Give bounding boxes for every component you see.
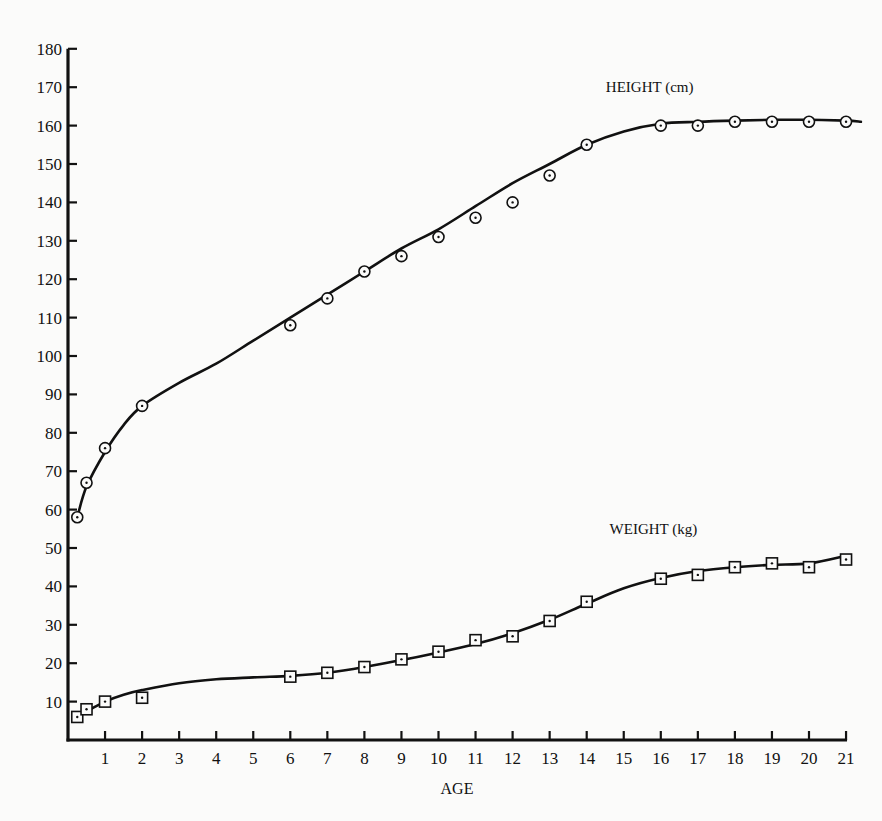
circle-marker-icon (507, 197, 518, 208)
x-tick-label: 3 (175, 749, 184, 768)
x-tick-label: 15 (615, 749, 632, 768)
y-tick-label: 140 (37, 193, 63, 212)
square-marker-icon (81, 704, 92, 715)
growth-chart: 1020304050607080901001101201301401501601… (0, 0, 882, 821)
x-tick-label: 9 (397, 749, 406, 768)
x-tick-label: 21 (838, 749, 855, 768)
x-tick-label: 8 (360, 749, 369, 768)
circle-marker-icon (692, 120, 703, 131)
y-axis: 1020304050607080901001101201301401501601… (37, 40, 78, 742)
circle-marker-icon (766, 116, 777, 127)
square-marker-icon (470, 635, 481, 646)
y-tick-label: 160 (37, 117, 63, 136)
square-marker-icon (322, 667, 333, 678)
y-tick-label: 100 (37, 347, 63, 366)
square-marker-icon (655, 573, 666, 584)
x-tick-label: 20 (801, 749, 818, 768)
weight-curve (77, 556, 846, 715)
circle-marker-icon (841, 116, 852, 127)
x-tick-label: 6 (286, 749, 295, 768)
circle-marker-icon (729, 116, 740, 127)
square-marker-icon (544, 615, 555, 626)
circle-marker-icon (72, 512, 83, 523)
circle-marker-icon (322, 293, 333, 304)
square-marker-icon (766, 558, 777, 569)
x-tick-label: 2 (138, 749, 147, 768)
series-layer (72, 116, 861, 722)
y-tick-label: 120 (37, 270, 63, 289)
x-tick-label: 13 (541, 749, 558, 768)
square-marker-icon (359, 662, 370, 673)
square-marker-icon (433, 646, 444, 657)
x-tick-label: 14 (578, 749, 596, 768)
square-marker-icon (285, 671, 296, 682)
x-tick-label: 5 (249, 749, 258, 768)
square-marker-icon (581, 596, 592, 607)
x-tick-label: 4 (212, 749, 221, 768)
square-marker-icon (692, 569, 703, 580)
y-tick-label: 130 (37, 232, 63, 251)
y-tick-label: 40 (45, 577, 62, 596)
x-tick-label: 17 (689, 749, 707, 768)
square-marker-icon (729, 562, 740, 573)
square-marker-icon (804, 562, 815, 573)
y-tick-label: 70 (45, 462, 62, 481)
circle-marker-icon (804, 116, 815, 127)
circle-marker-icon (396, 251, 407, 262)
square-marker-icon (507, 631, 518, 642)
circle-marker-icon (433, 231, 444, 242)
circle-marker-icon (470, 212, 481, 223)
square-marker-icon (100, 696, 111, 707)
y-tick-label: 50 (45, 539, 62, 558)
x-tick-label: 18 (726, 749, 743, 768)
circle-marker-icon (544, 170, 555, 181)
square-marker-icon (137, 692, 148, 703)
x-tick-label: 19 (763, 749, 780, 768)
y-tick-label: 180 (37, 40, 63, 59)
y-tick-label: 80 (45, 424, 62, 443)
circle-marker-icon (137, 400, 148, 411)
y-tick-label: 20 (45, 654, 62, 673)
y-tick-label: 30 (45, 616, 62, 635)
series-height (72, 116, 861, 523)
circle-marker-icon (359, 266, 370, 277)
x-axis: 123456789101112131415161718192021 (67, 731, 855, 768)
y-tick-label: 60 (45, 501, 62, 520)
x-tick-label: 10 (430, 749, 447, 768)
x-tick-label: 11 (467, 749, 483, 768)
x-axis-title: AGE (441, 780, 474, 797)
y-tick-label: 110 (37, 309, 62, 328)
circle-marker-icon (655, 120, 666, 131)
circle-marker-icon (81, 477, 92, 488)
circle-marker-icon (581, 139, 592, 150)
height-series-label: HEIGHT (cm) (606, 79, 694, 96)
chart-canvas: 1020304050607080901001101201301401501601… (0, 0, 882, 821)
y-tick-label: 90 (45, 385, 62, 404)
x-tick-label: 1 (101, 749, 110, 768)
y-tick-label: 170 (37, 78, 63, 97)
y-tick-label: 10 (45, 693, 62, 712)
square-marker-icon (841, 554, 852, 565)
circle-marker-icon (285, 320, 296, 331)
x-tick-label: 16 (652, 749, 669, 768)
y-tick-label: 150 (37, 155, 63, 174)
circle-marker-icon (100, 443, 111, 454)
annotation-layer: HEIGHT (cm)WEIGHT (kg) (606, 79, 697, 538)
x-tick-label: 12 (504, 749, 521, 768)
weight-series-label: WEIGHT (kg) (610, 521, 698, 538)
height-curve (77, 120, 861, 518)
square-marker-icon (396, 654, 407, 665)
x-tick-label: 7 (323, 749, 332, 768)
series-weight (72, 554, 852, 722)
